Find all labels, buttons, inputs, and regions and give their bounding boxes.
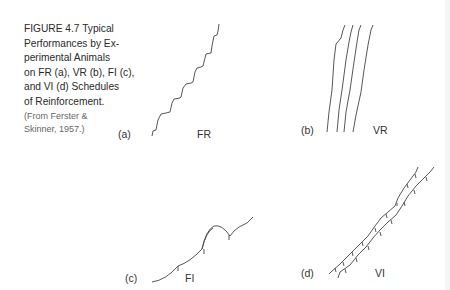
vr-record-3: [344, 25, 361, 132]
fr-record: [152, 24, 219, 136]
vr-record-2: [337, 25, 353, 132]
fi-record: [202, 228, 213, 249]
vi-record-1: [329, 167, 418, 274]
vr-record-4: [353, 25, 373, 132]
vr-record-1: [327, 25, 345, 132]
vi-record-2: [338, 167, 434, 278]
fi-record: [152, 217, 253, 282]
cumulative-records: [0, 0, 450, 290]
